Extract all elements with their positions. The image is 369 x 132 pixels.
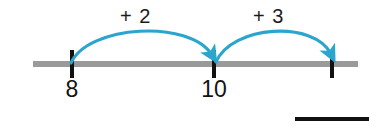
- jump-label-plus-2: + 2: [120, 6, 151, 26]
- answer-blank-rule: [295, 117, 369, 121]
- tick-label-8: 8: [52, 78, 92, 101]
- jump-arc-plus-3: [216, 31, 331, 62]
- jump-label-plus-3: + 3: [253, 6, 284, 26]
- number-line-graphic: [0, 0, 369, 132]
- number-line-diagram: + 2 + 3 8 10: [0, 0, 369, 132]
- jump-arc-plus-2: [71, 31, 212, 63]
- tick-label-10: 10: [192, 78, 236, 101]
